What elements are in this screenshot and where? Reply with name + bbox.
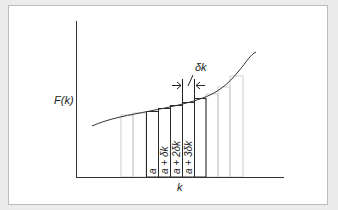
riemann-sum-diagram: δk F(k) k a a + δk a + 2δk a + 3δk xyxy=(0,0,338,210)
interval-label: δk xyxy=(195,61,207,73)
bar-label-a: a xyxy=(147,168,158,174)
bar-label-a-plus-2dk: a + 2δk xyxy=(171,140,182,174)
bar-label-a-plus-3dk: a + 3δk xyxy=(183,140,194,174)
x-axis-label: k xyxy=(177,181,183,193)
y-axis-label: F(k) xyxy=(54,94,74,106)
bar-label-a-plus-dk: a + δk xyxy=(159,145,170,174)
interval-marker xyxy=(172,75,205,102)
function-curve xyxy=(92,52,256,126)
